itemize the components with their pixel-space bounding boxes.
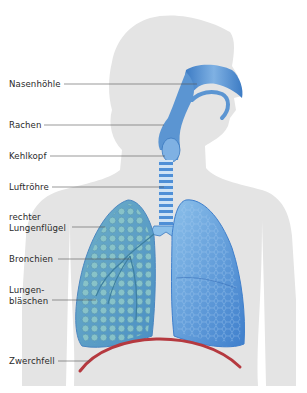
label-rachen: Rachen — [9, 120, 42, 131]
label-bronchien: Bronchien — [9, 254, 53, 265]
respiratory-diagram: Nasenhöhle Rachen Kehlkopf Luftröhre rec… — [0, 0, 307, 393]
body-illustration — [0, 0, 307, 393]
label-kehlkopf: Kehlkopf — [9, 151, 47, 162]
label-nasenhoehle: Nasenhöhle — [9, 79, 61, 90]
label-zwerchfell: Zwerchfell — [9, 356, 55, 367]
label-rechter-lungenfluegel: rechter Lungenflügel — [9, 212, 66, 233]
label-lungenblaeschen: Lungen- bläschen — [9, 285, 48, 306]
label-luftroehre: Luftröhre — [9, 182, 49, 193]
